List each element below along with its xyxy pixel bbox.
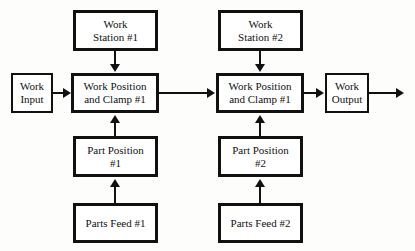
arrowhead-input-to-clamp1 bbox=[63, 88, 71, 98]
node-work-input-label: Work Input bbox=[15, 80, 49, 105]
edge-partposition1-to-clamp1 bbox=[114, 122, 116, 136]
node-work-station-2-label: Work Station #2 bbox=[223, 18, 298, 43]
arrowhead-output-exit bbox=[396, 88, 404, 98]
node-parts-feed-2-label: Parts Feed #2 bbox=[223, 217, 298, 230]
arrowhead-partposition2-to-clamp2 bbox=[255, 115, 265, 123]
node-work-station-1: Work Station #1 bbox=[73, 10, 158, 51]
node-part-position-1: Part Position #1 bbox=[73, 136, 158, 177]
node-parts-feed-1: Parts Feed #1 bbox=[73, 203, 158, 243]
node-work-output: Work Output bbox=[325, 73, 369, 113]
arrowhead-partsfeed1-to-partposition1 bbox=[110, 179, 120, 187]
node-parts-feed-2: Parts Feed #2 bbox=[218, 203, 303, 243]
edge-partsfeed1-to-partposition1 bbox=[114, 186, 116, 203]
arrowhead-station2-to-clamp2 bbox=[255, 64, 265, 72]
node-work-position-clamp-1: Work Position and Clamp #1 bbox=[71, 73, 159, 113]
node-work-position-clamp-1-label: Work Position and Clamp #1 bbox=[76, 80, 154, 105]
arrowhead-clamp1-to-clamp2 bbox=[207, 88, 215, 98]
node-work-station-1-label: Work Station #1 bbox=[78, 18, 153, 43]
node-part-position-1-label: Part Position #1 bbox=[78, 144, 153, 169]
edge-clamp1-to-clamp2 bbox=[159, 92, 210, 94]
process-flow-diagram: Work Station #1 Work Station #2 Work Inp… bbox=[0, 0, 415, 251]
node-work-input: Work Input bbox=[11, 73, 53, 113]
node-part-position-2: Part Position #2 bbox=[218, 136, 303, 177]
node-work-position-clamp-2-label: Work Position and Clamp #1 bbox=[221, 80, 299, 105]
node-work-output-label: Work Output bbox=[329, 80, 365, 105]
node-parts-feed-1-label: Parts Feed #1 bbox=[78, 217, 153, 230]
node-work-station-2: Work Station #2 bbox=[218, 10, 303, 51]
edge-partsfeed2-to-partposition2 bbox=[259, 186, 261, 203]
arrowhead-partposition1-to-clamp1 bbox=[110, 115, 120, 123]
arrowhead-partsfeed2-to-partposition2 bbox=[255, 179, 265, 187]
arrowhead-clamp2-to-output bbox=[316, 88, 324, 98]
arrowhead-station1-to-clamp1 bbox=[110, 64, 120, 72]
edge-partposition2-to-clamp2 bbox=[259, 122, 261, 136]
node-part-position-2-label: Part Position #2 bbox=[223, 144, 298, 169]
node-work-position-clamp-2: Work Position and Clamp #1 bbox=[216, 73, 304, 113]
